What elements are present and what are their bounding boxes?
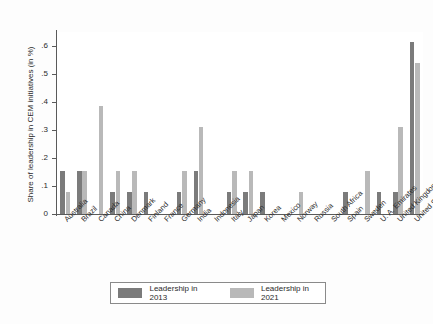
x-tick-label: Norway: [296, 218, 302, 224]
y-tick-label: .5: [22, 70, 48, 78]
legend-label-2021: Leadership in 2021: [261, 284, 325, 302]
legend-item-2021: Leadership in 2021: [230, 284, 326, 302]
x-tick-label: Germany: [180, 218, 186, 224]
legend-label-2013: Leadership in 2013: [149, 284, 213, 302]
x-tick-label: Denmark: [130, 218, 136, 224]
x-tick-label: Japan: [246, 218, 252, 224]
legend-swatch-2021: [230, 288, 254, 298]
x-tick-label: Brazil: [80, 218, 86, 224]
bar: [249, 171, 254, 214]
x-tick-label: United States: [413, 218, 419, 224]
x-tick-label: Spain: [346, 218, 352, 224]
y-tick-label: .1: [22, 182, 48, 190]
bar: [60, 171, 65, 214]
x-tick-label: Sweden: [363, 218, 369, 224]
bar: [243, 192, 248, 214]
chart-figure: Share of leadership in CEM initiatives (…: [0, 0, 433, 324]
y-tick-label: .4: [22, 98, 48, 106]
x-tick-label: China: [113, 218, 119, 224]
x-tick-label: Mexico: [280, 218, 286, 224]
x-tick-label: Italy: [230, 218, 236, 224]
x-tick-label: Indonesia: [213, 218, 219, 224]
x-tick-label: India: [196, 218, 202, 224]
y-tick-label: .3: [22, 126, 48, 134]
y-tick-label: .6: [22, 42, 48, 50]
x-tick-label: Korea: [263, 218, 269, 224]
chart-legend: Leadership in 2013 Leadership in 2021: [110, 282, 326, 304]
bar: [365, 171, 370, 214]
plot-area: [57, 32, 423, 214]
x-tick-label: United Kingdom: [396, 218, 402, 224]
x-tick-label: Canada: [97, 218, 103, 224]
y-tick-label: .2: [22, 154, 48, 162]
y-tick-label: 0: [22, 210, 48, 218]
x-tick-label: South Africa: [330, 218, 336, 224]
x-tick-label: Finland: [147, 218, 153, 224]
x-tick-label: Russia: [313, 218, 319, 224]
x-tick-label: France: [163, 218, 169, 224]
bar: [99, 106, 104, 214]
x-tick-label: U. A. Emirates: [379, 218, 385, 224]
x-tick-label: Australia: [63, 218, 69, 224]
bar: [132, 171, 137, 214]
legend-item-2013: Leadership in 2013: [118, 284, 214, 302]
legend-swatch-2013: [118, 288, 142, 298]
